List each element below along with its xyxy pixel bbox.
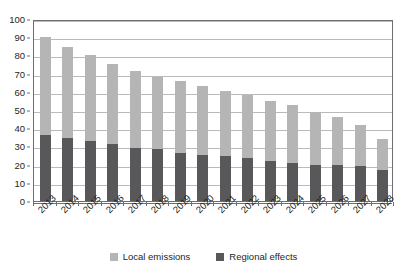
stacked-bar-chart: 0102030405060708090100 20132014201520162… <box>0 0 407 273</box>
bar-group-2028 <box>377 139 388 201</box>
legend-swatch-local-emissions <box>110 253 118 261</box>
bar-segment-local-emissions-2022 <box>242 95 253 159</box>
legend-label-1: Local emissions <box>123 252 191 262</box>
x-tick-mark-2019 <box>168 202 169 206</box>
legend-label-2: Regional effects <box>229 252 297 262</box>
bar-group-2016 <box>107 64 118 201</box>
bar-segment-local-emissions-2028 <box>377 139 388 170</box>
x-tick-mark-2028 <box>371 202 372 206</box>
y-tick-mark-100 <box>27 20 30 21</box>
bar-segment-local-emissions-2015 <box>85 55 96 141</box>
chart-legend: Local emissionsRegional effects <box>0 248 407 266</box>
bar-group-2019 <box>175 81 186 201</box>
y-axis: 0102030405060708090100 <box>0 20 30 202</box>
y-tick-label-90: 90 <box>14 33 25 43</box>
y-tick-mark-0 <box>27 202 30 203</box>
x-tick-mark-2023 <box>258 202 259 206</box>
y-tick-label-60: 60 <box>14 88 25 98</box>
y-tick-mark-90 <box>27 38 30 39</box>
plot-area <box>33 20 393 202</box>
bar-segment-local-emissions-2027 <box>355 125 366 166</box>
bar-segment-local-emissions-2019 <box>175 81 186 153</box>
x-tick-mark-2016 <box>101 202 102 206</box>
y-tick-label-80: 80 <box>14 52 25 62</box>
bar-segment-local-emissions-2016 <box>107 64 118 144</box>
bar-group-2024 <box>287 105 298 201</box>
bar-group-2013 <box>40 37 51 201</box>
bar-segment-local-emissions-2020 <box>197 86 208 154</box>
y-tick-mark-70 <box>27 74 30 75</box>
bar-segment-regional-effects-2014 <box>62 138 73 201</box>
legend-entry-2: Regional effects <box>216 252 297 262</box>
y-tick-mark-40 <box>27 129 30 130</box>
bar-group-2023 <box>265 101 276 201</box>
bar-segment-local-emissions-2014 <box>62 47 73 138</box>
x-axis: 2013201420152016201720182019202020212022… <box>33 202 393 248</box>
bar-segment-local-emissions-2018 <box>152 77 163 149</box>
x-tick-mark-2026 <box>326 202 327 206</box>
bars-layer <box>34 21 392 201</box>
x-tick-mark-2013 <box>33 202 34 206</box>
x-tick-mark-2018 <box>146 202 147 206</box>
y-tick-label-30: 30 <box>14 143 25 153</box>
y-tick-mark-30 <box>27 147 30 148</box>
x-tick-mark-2015 <box>78 202 79 206</box>
x-tick-mark-2022 <box>236 202 237 206</box>
y-tick-mark-60 <box>27 92 30 93</box>
x-tick-mark-2024 <box>281 202 282 206</box>
bar-group-2018 <box>152 77 163 201</box>
y-tick-label-40: 40 <box>14 124 25 134</box>
x-tick-mark-2021 <box>213 202 214 206</box>
x-tick-mark-2025 <box>303 202 304 206</box>
y-tick-label-20: 20 <box>14 161 25 171</box>
y-tick-label-0: 0 <box>20 197 25 207</box>
x-tick-mark-end <box>393 202 394 206</box>
bar-segment-local-emissions-2023 <box>265 101 276 161</box>
y-tick-mark-50 <box>27 111 30 112</box>
bar-group-2022 <box>242 95 253 201</box>
bar-group-2021 <box>220 91 231 201</box>
bar-segment-local-emissions-2025 <box>310 112 321 165</box>
bar-group-2015 <box>85 55 96 201</box>
x-tick-mark-2020 <box>191 202 192 206</box>
x-tick-mark-2027 <box>348 202 349 206</box>
bar-segment-local-emissions-2024 <box>287 105 298 162</box>
y-tick-label-70: 70 <box>14 70 25 80</box>
bar-group-2017 <box>130 71 141 201</box>
bar-segment-local-emissions-2026 <box>332 117 343 164</box>
y-tick-mark-20 <box>27 165 30 166</box>
bar-group-2026 <box>332 117 343 201</box>
y-tick-mark-80 <box>27 56 30 57</box>
bar-group-2020 <box>197 86 208 201</box>
y-tick-label-50: 50 <box>14 106 25 116</box>
x-tick-mark-2014 <box>56 202 57 206</box>
bar-segment-local-emissions-2021 <box>220 91 231 157</box>
legend-swatch-regional-effects <box>216 253 224 261</box>
y-tick-mark-10 <box>27 183 30 184</box>
bar-group-2027 <box>355 125 366 201</box>
bar-segment-local-emissions-2013 <box>40 37 51 135</box>
bar-group-2014 <box>62 47 73 201</box>
bar-group-2025 <box>310 112 321 201</box>
bar-segment-regional-effects-2013 <box>40 135 51 201</box>
x-tick-mark-2017 <box>123 202 124 206</box>
bar-segment-local-emissions-2017 <box>130 71 141 148</box>
y-tick-label-100: 100 <box>9 15 25 25</box>
legend-entry-1: Local emissions <box>110 252 191 262</box>
y-tick-label-10: 10 <box>14 179 25 189</box>
